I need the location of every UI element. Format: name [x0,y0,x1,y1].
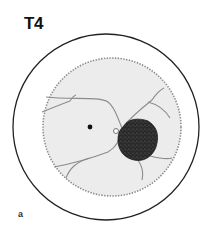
fovea-dot [88,125,93,130]
fundus-disc [43,58,181,196]
fundus-diagram [0,0,213,248]
optic-ring [114,129,119,134]
tumor-lesion [118,119,158,160]
panel-label: a [18,209,23,219]
